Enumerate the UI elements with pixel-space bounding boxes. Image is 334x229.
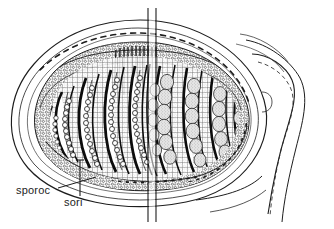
- section-break-line: [148, 8, 156, 222]
- label-sori: sori: [64, 197, 83, 208]
- label-sporoc: sporoc: [16, 185, 50, 196]
- sporocarp-figure: sporoc sori: [0, 0, 334, 229]
